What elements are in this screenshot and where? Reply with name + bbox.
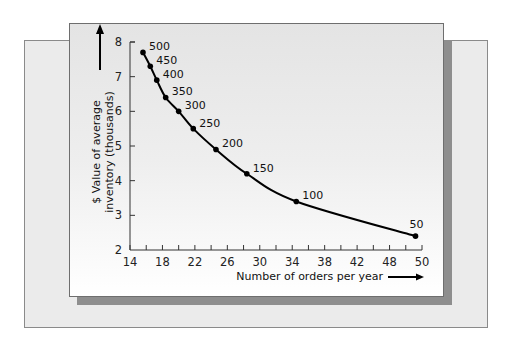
data-point bbox=[154, 77, 160, 83]
data-points: 50045040035030025020015010050 bbox=[140, 40, 423, 239]
x-tick-label: 34 bbox=[285, 255, 300, 269]
data-point bbox=[147, 63, 153, 69]
x-tick-label: 38 bbox=[317, 255, 332, 269]
y-axis-title: $ Value of average inventory (thousands) bbox=[90, 24, 116, 213]
data-point-label: 150 bbox=[253, 162, 274, 175]
data-point-label: 50 bbox=[410, 218, 424, 231]
data-point-label: 350 bbox=[172, 85, 193, 98]
data-point-label: 500 bbox=[149, 40, 170, 53]
data-point-label: 300 bbox=[185, 99, 206, 112]
x-tick-label: 14 bbox=[123, 255, 138, 269]
data-line bbox=[143, 52, 416, 236]
x-tick-label: 26 bbox=[220, 255, 235, 269]
x-axis-title: Number of orders per year bbox=[236, 270, 424, 283]
y-axis-title-line1: $ Value of average bbox=[90, 100, 103, 204]
x-tick-label: 48 bbox=[382, 255, 397, 269]
data-point-label: 100 bbox=[302, 189, 323, 202]
data-point bbox=[163, 95, 169, 101]
x-ticks: 14182226303438424850 bbox=[123, 245, 430, 269]
data-point bbox=[213, 147, 219, 153]
data-point bbox=[413, 233, 419, 239]
y-tick-label: 2 bbox=[115, 243, 122, 257]
data-point bbox=[293, 199, 299, 205]
data-point-label: 400 bbox=[163, 68, 184, 81]
x-tick-label: 18 bbox=[155, 255, 170, 269]
x-axis-title-text: Number of orders per year bbox=[236, 270, 383, 283]
chart: 2345678 14182226303438424850 $ Value of … bbox=[0, 0, 513, 349]
y-tick-label: 8 bbox=[115, 35, 122, 49]
data-point bbox=[190, 126, 196, 132]
right-arrow-head-icon bbox=[416, 274, 424, 281]
up-arrow-head-icon bbox=[96, 24, 104, 34]
data-point-label: 250 bbox=[199, 117, 220, 130]
x-tick-label: 50 bbox=[415, 255, 430, 269]
y-axis-title-line2: inventory (thousands) bbox=[103, 91, 116, 213]
y-tick-label: 7 bbox=[115, 70, 122, 84]
y-ticks: 2345678 bbox=[115, 35, 135, 257]
data-point-label: 200 bbox=[222, 137, 243, 150]
x-tick-label: 22 bbox=[188, 255, 203, 269]
data-point bbox=[140, 50, 146, 56]
data-point bbox=[176, 109, 182, 115]
x-tick-label: 30 bbox=[252, 255, 267, 269]
x-tick-label: 42 bbox=[350, 255, 365, 269]
data-point bbox=[244, 171, 250, 177]
data-point-label: 450 bbox=[156, 54, 177, 67]
